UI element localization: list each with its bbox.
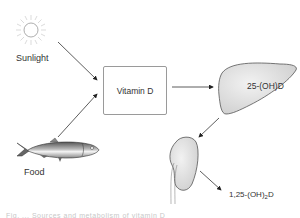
- sun-icon: [16, 15, 46, 45]
- arrow-kidney-to-product: [200, 171, 221, 190]
- food-label: Food: [24, 167, 45, 177]
- arrow-sunlight-to-vitamin-d: [58, 42, 97, 80]
- vitamin-d-label: Vitamin D: [117, 86, 154, 96]
- product-label: 1,25-(OH)2D: [229, 190, 274, 200]
- product-label-main: 1,25-(OH): [229, 190, 265, 199]
- arrow-food-to-vitamin-d: [58, 94, 97, 137]
- sunlight-label: Sunlight: [16, 53, 49, 63]
- figure-caption: Fig. ... Sources and metabolism of vitam…: [6, 212, 165, 218]
- arrow-liver-to-kidney: [199, 118, 219, 137]
- product-label-tail: D: [268, 190, 274, 199]
- liver-label: 25-(OH)D: [247, 81, 284, 91]
- fish-icon: [17, 138, 99, 162]
- vitamin-d-box: Vitamin D: [103, 66, 167, 115]
- kidney-icon: [170, 137, 198, 204]
